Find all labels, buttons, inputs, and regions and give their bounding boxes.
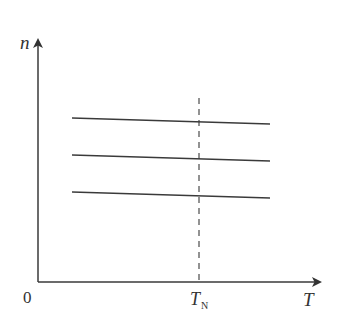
- y-axis-label: n: [20, 32, 30, 54]
- tn-label-subscript: N: [201, 300, 208, 311]
- lower-level-line: [72, 192, 270, 198]
- upper-level-line: [72, 118, 270, 124]
- tn-label-main: T: [190, 289, 200, 309]
- middle-level-line: [72, 155, 270, 161]
- tn-label: TN: [190, 289, 208, 311]
- origin-label: 0: [23, 288, 32, 308]
- diagram-canvas: [0, 0, 348, 334]
- x-axis-label: T: [303, 289, 314, 311]
- figure: n 0 TN T: [0, 0, 348, 334]
